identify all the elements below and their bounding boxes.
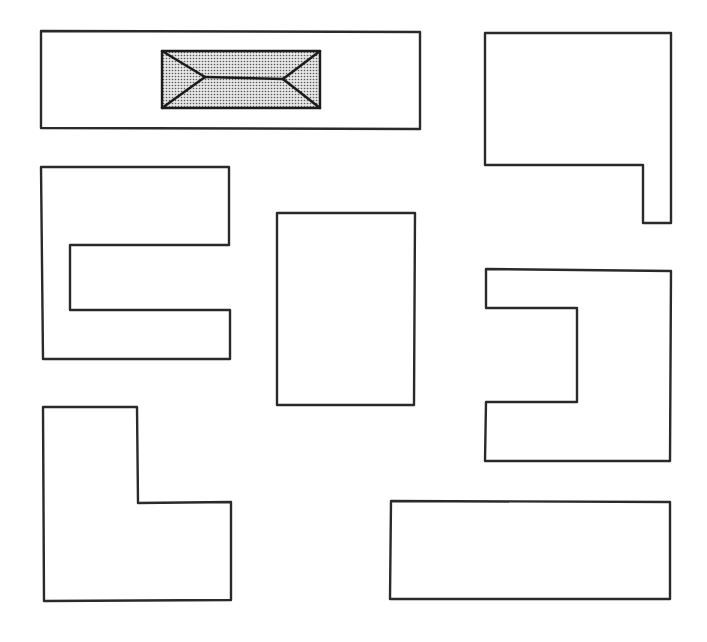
c-shape-left: [41, 167, 230, 359]
building-plan-diagram: [0, 0, 707, 642]
reverse-c-shape-right: [485, 269, 671, 461]
hip-roof-outline: [162, 51, 320, 108]
building-footprints: [41, 31, 671, 601]
long-rectangle-bottom-right: [390, 501, 670, 599]
notched-rectangle-top-right: [485, 33, 671, 223]
hip-roof: [162, 51, 320, 108]
l-shape-bottom-left: [43, 407, 231, 601]
center-rectangle: [277, 213, 415, 405]
